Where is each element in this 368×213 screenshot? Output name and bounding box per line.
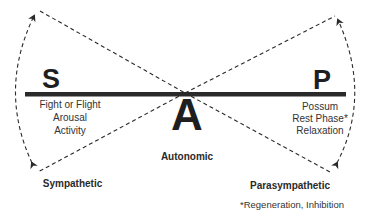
parasympathetic-description: Possum Rest Phase* Relaxation xyxy=(270,101,368,136)
autonomic-label: Autonomic xyxy=(147,151,227,162)
right-arc-arrow xyxy=(337,20,355,163)
sympathetic-letter: S xyxy=(38,66,64,93)
sympathetic-desc-line: Arousal xyxy=(20,112,120,123)
parasympathetic-desc-line: Rest Phase* xyxy=(270,113,368,124)
left-arc-arrow xyxy=(15,16,34,163)
parasympathetic-desc-line: Possum xyxy=(270,101,368,112)
sympathetic-description: Fight or Flight Arousal Activity xyxy=(20,99,120,136)
footnote: *Regeneration, Inhibition xyxy=(240,199,368,210)
sympathetic-label: Sympathetic xyxy=(30,178,115,189)
parasympathetic-label: Parasympathetic xyxy=(240,180,340,191)
parasympathetic-desc-line: Relaxation xyxy=(270,125,368,136)
sympathetic-desc-line: Activity xyxy=(20,125,120,136)
sympathetic-desc-line: Fight or Flight xyxy=(20,99,120,110)
autonomic-letter: A xyxy=(167,94,207,136)
parasympathetic-letter: P xyxy=(308,67,336,94)
